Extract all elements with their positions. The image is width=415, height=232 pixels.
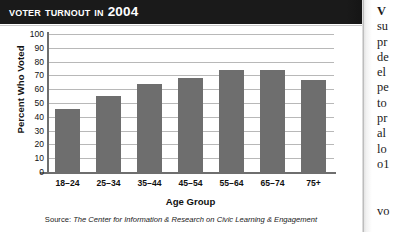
bar xyxy=(96,96,121,172)
y-tick-label: 40 xyxy=(4,113,44,122)
source-text: The Center for Information & Research on… xyxy=(73,215,317,224)
plot-area xyxy=(47,34,334,172)
body-text-line: lo xyxy=(377,142,389,157)
x-axis-line xyxy=(40,172,336,174)
x-tick-label: 45–54 xyxy=(170,178,211,188)
body-text-column: Vsuprdeelpetopralloo1 vo xyxy=(374,0,415,232)
x-tick-label: 75+ xyxy=(293,178,334,188)
y-axis-tick: 80 xyxy=(0,62,44,63)
y-tick-label: 50 xyxy=(4,99,44,108)
figure-source: Source: The Center for Information & Res… xyxy=(0,215,362,224)
body-text-line: pe xyxy=(377,80,389,95)
textbook-page: Voter Turnout in 2004 Percent Who Voted … xyxy=(0,0,415,232)
y-tick-label: 70 xyxy=(4,71,44,80)
y-axis-tick: 100 xyxy=(0,34,44,35)
gridline xyxy=(47,48,334,49)
y-tick-label: 30 xyxy=(4,127,44,136)
body-text-line: vo xyxy=(377,204,389,219)
bar-chart: Percent Who Voted Age Group 010203040506… xyxy=(0,28,372,203)
bar xyxy=(178,78,203,172)
y-tick-label: 80 xyxy=(4,58,44,67)
y-tick-label: 0 xyxy=(4,168,44,177)
page-gutter-rule xyxy=(363,0,364,232)
body-text-line: o1 xyxy=(377,157,389,172)
x-tick-label: 55–64 xyxy=(211,178,252,188)
title-bar-edge-fade xyxy=(336,0,362,24)
body-text-line: su xyxy=(377,19,389,34)
x-tick-label: 65–74 xyxy=(252,178,293,188)
y-axis-tick: 70 xyxy=(0,75,44,76)
page-title: Voter Turnout in 2004 xyxy=(9,4,138,19)
body-text-line: pr xyxy=(377,35,389,50)
y-axis-tick: 40 xyxy=(0,117,44,118)
y-tick-label: 90 xyxy=(4,44,44,53)
y-axis-tick: 50 xyxy=(0,103,44,104)
y-axis-tick: 60 xyxy=(0,89,44,90)
bar xyxy=(137,84,162,172)
bar xyxy=(260,70,285,172)
y-axis-tick: 30 xyxy=(0,131,44,132)
bar xyxy=(219,70,244,172)
bar xyxy=(301,80,326,172)
body-text-line: to xyxy=(377,96,389,111)
bar xyxy=(55,109,80,172)
gridline xyxy=(47,62,334,63)
figure-title-bar: Voter Turnout in 2004 xyxy=(0,0,362,24)
y-axis-tick: 10 xyxy=(0,158,44,159)
x-tick-label: 25–34 xyxy=(88,178,129,188)
figure-column: Voter Turnout in 2004 Percent Who Voted … xyxy=(0,0,372,232)
y-axis-tick: 0 xyxy=(0,172,44,173)
source-label: Source: xyxy=(45,215,71,224)
y-tick-label: 60 xyxy=(4,85,44,94)
y-axis-tick: 90 xyxy=(0,48,44,49)
body-text-line: al xyxy=(377,126,389,141)
x-axis-title: Age Group xyxy=(47,196,334,207)
body-paragraph-1: Vsuprdeelpetopralloo1 xyxy=(377,4,389,172)
x-tick-label: 18–24 xyxy=(47,178,88,188)
y-tick-label: 20 xyxy=(4,140,44,149)
y-axis-line xyxy=(47,32,49,174)
gridline xyxy=(47,75,334,76)
body-paragraph-2: vo xyxy=(377,204,389,219)
y-tick-label: 10 xyxy=(4,154,44,163)
gridline xyxy=(47,34,334,35)
body-text-line: el xyxy=(377,65,389,80)
y-tick-label: 100 xyxy=(4,30,44,39)
title-divider xyxy=(0,25,362,26)
body-text-line: de xyxy=(377,50,389,65)
x-tick-label: 35–44 xyxy=(129,178,170,188)
body-text-line: pr xyxy=(377,111,389,126)
body-text-line: V xyxy=(377,4,389,19)
y-axis-tick: 20 xyxy=(0,144,44,145)
